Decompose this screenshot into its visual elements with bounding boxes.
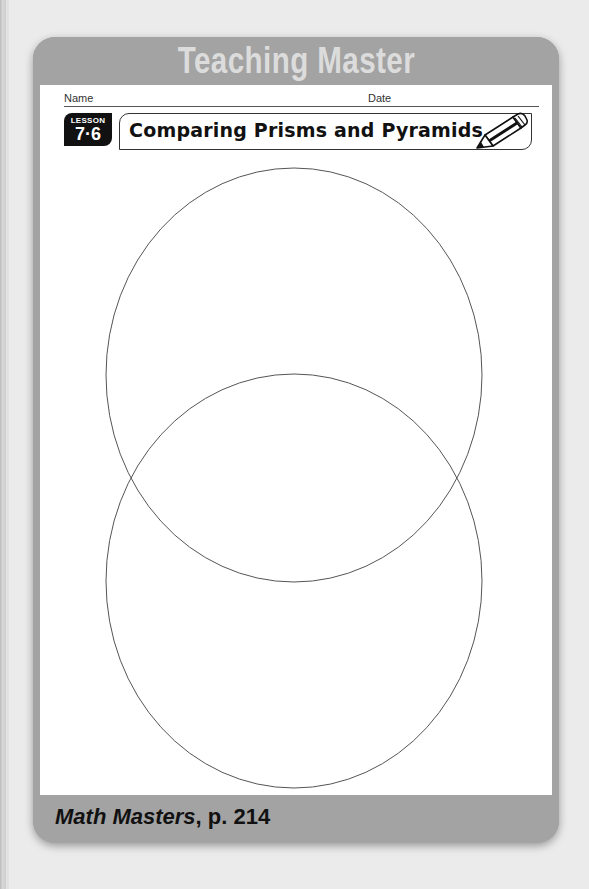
venn-circle-top xyxy=(106,168,482,582)
left-edge-highlight xyxy=(6,0,9,889)
header-title: Teaching Master xyxy=(177,40,414,82)
card-header: Teaching Master xyxy=(33,37,559,85)
footer-book-title: Math Masters xyxy=(55,804,196,829)
footer-reference: Math Masters, p. 214 xyxy=(55,804,270,830)
teaching-master-card: Teaching Master Name Date LESSON 7·6 Com… xyxy=(33,37,559,843)
footer-page-ref: , p. 214 xyxy=(196,804,271,829)
venn-diagram xyxy=(40,85,552,795)
card-footer: Math Masters, p. 214 xyxy=(33,795,559,843)
worksheet-page: Name Date LESSON 7·6 Comparing Prisms an… xyxy=(40,85,552,795)
venn-circle-bottom xyxy=(106,374,482,788)
